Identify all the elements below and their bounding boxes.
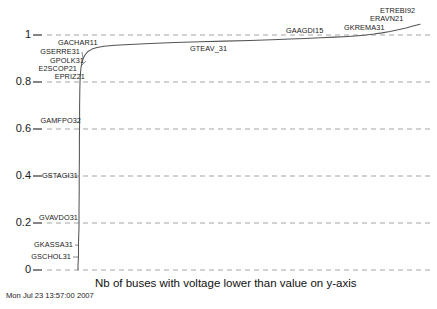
data-point-label: GKASSA31 xyxy=(0,241,73,249)
data-point-label: GTEAV_31 xyxy=(190,45,227,53)
data-point-label: E2SCOP21 xyxy=(0,65,77,73)
data-point-label: GPOLK31 xyxy=(0,57,84,65)
data-point-label: GACHAR11 xyxy=(58,39,98,47)
y-axis-tick-label: 1 xyxy=(0,29,31,40)
data-point-label: ERAVN21 xyxy=(370,15,403,23)
data-point-label: GSCHOL31 xyxy=(0,253,71,261)
timestamp-label: Mon Jul 23 13:57:00 2007 xyxy=(6,291,94,300)
data-point-label: EPRIZ21 xyxy=(0,73,85,81)
x-axis-title: Nb of buses with voltage lower than valu… xyxy=(95,277,415,289)
y-axis-tick-label: 0 xyxy=(0,264,31,275)
data-point-label: GKREMA31 xyxy=(344,24,385,32)
data-curve xyxy=(78,24,420,270)
voltage-cdf-chart: 00.20.40.60.81 GSCHOL31GKASSA31GVAVDO31G… xyxy=(0,0,437,309)
data-point-label: GVAVDO31 xyxy=(0,214,78,222)
cdf-line xyxy=(78,24,420,270)
data-point-label: GAAGDI15 xyxy=(286,27,323,35)
data-point-label: GSERRE31 xyxy=(0,48,80,56)
data-point-label: GSTAGI31 xyxy=(0,172,78,180)
data-point-label: GAMFPO32 xyxy=(0,117,81,125)
gridlines xyxy=(47,35,430,270)
data-point-label: ETREBI92 xyxy=(380,7,415,15)
